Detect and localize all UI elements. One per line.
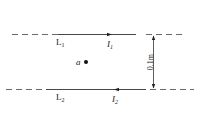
arrow-right-icon (107, 33, 112, 36)
diagram-lines (0, 0, 200, 116)
wire-l2-label: L2 (56, 93, 65, 103)
point-a-label: a (76, 58, 81, 67)
wire-l1 (12, 33, 184, 36)
wire-l1-label: L1 (56, 38, 65, 48)
parallel-wires-diagram: L1 I1 a L2 I2 0.1m (0, 0, 200, 116)
current-i1-label: I1 (107, 40, 113, 50)
separation-label: 0.1m (147, 47, 155, 77)
point-a-dot (84, 60, 88, 64)
arrow-left-icon (114, 88, 119, 91)
wire-l2 (6, 88, 194, 91)
current-i2-label: I2 (112, 95, 118, 105)
